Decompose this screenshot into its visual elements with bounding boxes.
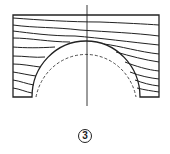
inner-arch-line xyxy=(36,54,136,97)
grain-line xyxy=(125,62,159,71)
grain-line xyxy=(13,64,40,67)
grain-line xyxy=(13,88,32,93)
grain-line xyxy=(13,25,159,36)
grain-line xyxy=(13,31,159,45)
grain-line xyxy=(13,18,159,25)
grain-line xyxy=(13,80,34,85)
grain-line xyxy=(13,72,36,76)
grain-line xyxy=(13,38,70,42)
grain-line xyxy=(13,47,55,48)
grain-line xyxy=(13,56,45,57)
figure-label: 3 xyxy=(78,129,92,143)
grain-line xyxy=(104,44,159,54)
